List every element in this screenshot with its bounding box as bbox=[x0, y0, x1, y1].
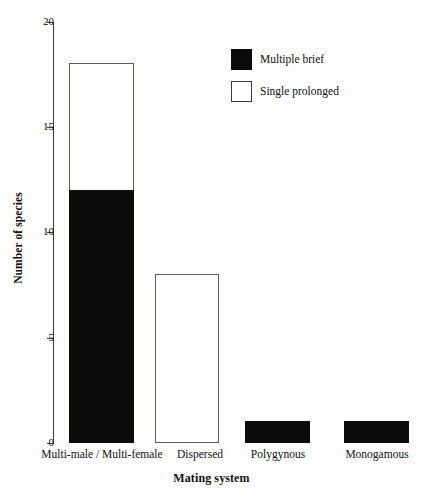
legend-swatch-filled-square-icon bbox=[231, 49, 252, 70]
bar-segment-multiple-brief bbox=[69, 190, 134, 443]
bar-segment-single-prolonged bbox=[155, 274, 219, 443]
legend-label: Multiple brief bbox=[260, 52, 324, 66]
bar-polygynous bbox=[245, 421, 310, 443]
bar-segment-multiple-brief bbox=[344, 421, 409, 443]
y-tick-label: 20 bbox=[28, 16, 54, 27]
legend-swatch-open-square-icon bbox=[231, 81, 252, 102]
y-axis-title: Number of species bbox=[12, 168, 24, 308]
x-tick-label-dispersed: Dispersed bbox=[160, 448, 240, 461]
bar-chart-figure: 20 15 10 5 0 Number of species Multi-mal… bbox=[0, 0, 423, 495]
y-tick-label: 5 bbox=[28, 332, 54, 343]
x-tick-label-polygynous: Polygynous bbox=[234, 448, 322, 461]
bar-dispersed bbox=[155, 274, 219, 443]
y-tick-label: 0 bbox=[28, 437, 54, 448]
y-tick-10: 10 bbox=[0, 232, 54, 233]
y-tick-0: 0 bbox=[0, 443, 54, 444]
bar-multi-male-multi-female bbox=[69, 63, 134, 443]
bar-segment-single-prolonged bbox=[69, 63, 134, 191]
x-axis-title: Mating system bbox=[0, 471, 423, 486]
bar-segment-multiple-brief bbox=[245, 421, 310, 443]
bar-monogamous bbox=[344, 421, 409, 443]
y-tick-label: 15 bbox=[28, 121, 54, 132]
x-tick-label-monogamous: Monogamous bbox=[332, 448, 422, 461]
y-tick-15: 15 bbox=[0, 127, 54, 128]
y-tick-5: 5 bbox=[0, 338, 54, 339]
legend-label: Single prolonged bbox=[260, 84, 339, 98]
y-tick-20: 20 bbox=[0, 22, 54, 23]
x-tick-label-multi-male-multi-female: Multi-male / Multi-female bbox=[36, 448, 168, 461]
y-tick-label: 10 bbox=[28, 226, 54, 237]
